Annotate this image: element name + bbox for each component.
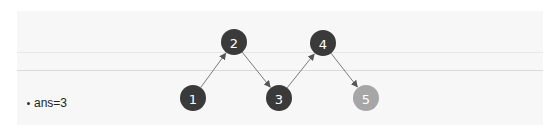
bullet-icon: [27, 102, 30, 105]
node-label: 4: [319, 37, 327, 52]
node-label: 2: [230, 36, 238, 51]
node-1: 1: [180, 85, 206, 111]
edge-2-3: [242, 52, 270, 87]
edge-3-4: [287, 54, 314, 88]
node-5: 5: [353, 85, 379, 111]
node-3: 3: [266, 85, 292, 111]
node-4: 4: [310, 30, 336, 56]
answer-caption: ans=3: [27, 96, 67, 110]
node-label: 3: [275, 92, 283, 107]
linked-graph: 12345: [0, 0, 559, 134]
nodes-group: 12345: [180, 29, 379, 111]
node-2: 2: [221, 29, 247, 55]
answer-text: ans=3: [34, 96, 67, 110]
edge-1-2: [201, 53, 226, 87]
node-label: 5: [362, 92, 370, 107]
node-label: 1: [189, 92, 197, 107]
edges-group: [201, 52, 358, 88]
edge-4-5: [331, 53, 357, 87]
